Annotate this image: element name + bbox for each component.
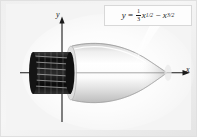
- equation-minus: −: [155, 11, 160, 20]
- solid-tip: [164, 65, 171, 81]
- screw-right-collar: [66, 52, 75, 94]
- y-axis-label: y: [56, 11, 60, 19]
- tip-flare: [164, 65, 171, 81]
- equation-text: y = 1 3 x1/2 − x3/2: [122, 9, 175, 23]
- screw-base: [29, 52, 75, 94]
- equation-fraction: 1 3: [136, 8, 141, 22]
- solid-of-revolution-figure: y = 1 3 x1/2 − x3/2 y x: [0, 0, 197, 137]
- equation-lhs: y: [122, 11, 126, 20]
- equation-equals: =: [128, 11, 133, 20]
- screw-left-cap: [29, 52, 37, 94]
- equation-callout-box: y = 1 3 x1/2 − x3/2: [104, 5, 192, 26]
- x-axis-label: x: [186, 66, 190, 74]
- fraction-denominator: 3: [136, 15, 141, 22]
